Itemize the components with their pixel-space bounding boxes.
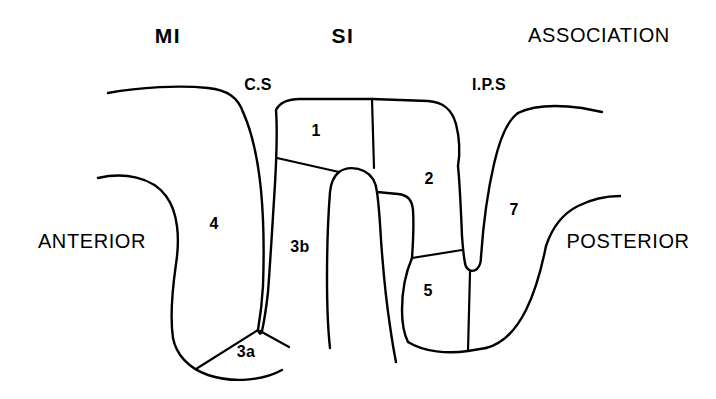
postcentral-fold-cap <box>339 168 377 192</box>
precentral-inferior-contour <box>173 338 282 380</box>
area-3a-3b-border <box>260 331 289 347</box>
cortex-outline-svg <box>0 0 716 399</box>
ips-fundus <box>465 257 481 271</box>
label-area-7: 7 <box>509 202 518 218</box>
postcentral-crown-right-contour <box>372 99 459 166</box>
label-posterior: POSTERIOR <box>566 231 689 251</box>
ips-posterior-bank <box>481 113 518 257</box>
area-1-2-border <box>372 99 374 168</box>
area-5-inferior-contour <box>408 342 486 352</box>
label-intraparietal-sulcus: I.P.S <box>472 77 506 93</box>
central-sulcus-anterior-wall <box>243 112 264 330</box>
label-area-1: 1 <box>311 123 320 139</box>
area-7-outer-contour <box>486 246 546 348</box>
heading-si: SI <box>332 25 355 46</box>
association-crown-contour <box>518 106 602 113</box>
label-area-2: 2 <box>424 171 433 187</box>
label-area-5: 5 <box>423 283 432 299</box>
area-1-3b-border <box>277 158 339 172</box>
label-area-3a: 3a <box>237 344 255 360</box>
area-2-5-border <box>412 250 462 258</box>
label-area-3b: 3b <box>290 239 309 255</box>
heading-association: ASSOCIATION <box>528 25 670 45</box>
postcentral-fold-right-wall <box>377 192 396 362</box>
anterior-bank-contour <box>98 176 178 338</box>
cortex-diagram: MI SI ASSOCIATION ANTERIOR POSTERIOR C.S… <box>0 0 716 399</box>
label-area-4: 4 <box>209 216 218 232</box>
heading-mi: MI <box>155 25 181 46</box>
ips-anterior-bank <box>458 166 465 263</box>
precentral-crown-contour <box>108 87 243 112</box>
postcentral-crown-contour <box>276 99 372 110</box>
area-5-7-border <box>468 272 470 351</box>
central-sulcus-posterior-wall <box>262 110 277 331</box>
label-central-sulcus: C.S <box>244 77 272 93</box>
label-anterior: ANTERIOR <box>38 231 146 251</box>
area-5-left-contour <box>402 258 412 342</box>
postcentral-fold-left-wall <box>327 172 339 348</box>
